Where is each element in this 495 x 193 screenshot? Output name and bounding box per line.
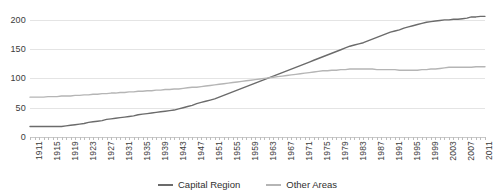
x-tick [129,137,130,140]
x-tick [62,137,63,140]
x-tick [188,137,189,140]
x-tick-label: 1983 [358,141,368,161]
x-tick [102,137,103,140]
x-tick [287,137,288,140]
x-tick [300,137,301,140]
x-tick-label: 1943 [178,141,188,161]
x-tick [197,137,198,140]
x-tick [165,137,166,140]
x-tick [273,137,274,140]
y-axis: 050100150200 [0,0,26,193]
series-lines [30,14,485,137]
x-tick [314,137,315,140]
legend-item[interactable]: Other Areas [266,179,337,190]
x-tick [485,137,486,140]
x-tick [219,137,220,140]
x-tick [138,137,139,140]
x-tick [206,137,207,140]
x-tick-label: 1931 [124,141,134,161]
x-tick-label: 1971 [304,141,314,161]
x-tick-label: 1999 [430,141,440,161]
x-tick [75,137,76,140]
x-tick [422,137,423,140]
x-tick [183,137,184,140]
x-tick [228,137,229,140]
legend-item[interactable]: Capital Region [158,179,240,190]
x-tick [377,137,378,140]
x-tick [170,137,171,140]
x-tick-label: 2011 [484,141,494,160]
x-tick [467,137,468,140]
x-tick-label: 1963 [268,141,278,161]
x-tick [278,137,279,140]
x-tick [201,137,202,140]
x-tick [57,137,58,140]
x-tick-label: 1927 [106,141,116,161]
x-tick [408,137,409,140]
x-tick [435,137,436,140]
x-axis-labels: 1911191519191923192719311935193919431947… [30,141,485,177]
y-tick-label: 100 [10,73,26,83]
series-line [30,16,485,126]
x-tick [372,137,373,140]
x-tick-label: 1919 [70,141,80,161]
x-tick-label: 1923 [88,141,98,161]
x-tick [368,137,369,140]
x-tick [192,137,193,140]
x-tick [332,137,333,140]
x-tick-label: 1987 [376,141,386,161]
x-tick-label: 1911 [34,141,44,160]
x-tick [426,137,427,140]
x-tick [444,137,445,140]
x-tick [156,137,157,140]
x-tick [282,137,283,140]
x-tick [395,137,396,140]
x-tick [224,137,225,140]
x-tick [413,137,414,140]
x-tick [233,137,234,140]
x-tick [35,137,36,140]
x-tick-label: 1995 [412,141,422,161]
x-tick-label: 1975 [322,141,332,161]
x-tick [107,137,108,140]
x-tick [363,137,364,140]
x-tick-label: 1947 [196,141,206,161]
x-tick [143,137,144,140]
x-tick [480,137,481,140]
x-tick [341,137,342,140]
x-tick [296,137,297,140]
x-tick-label: 2007 [466,141,476,161]
x-tick [48,137,49,140]
x-tick-label: 2003 [448,141,458,161]
x-tick [80,137,81,140]
x-tick-label: 1967 [286,141,296,161]
x-tick [147,137,148,140]
y-tick-label: 200 [10,15,26,25]
x-tick [458,137,459,140]
x-tick [71,137,72,140]
x-tick-label: 1955 [232,141,242,161]
x-tick [93,137,94,140]
x-tick [476,137,477,140]
x-tick [98,137,99,140]
x-tick [260,137,261,140]
legend-label: Capital Region [178,179,240,190]
x-tick [309,137,310,140]
x-tick [84,137,85,140]
x-tick [152,137,153,140]
legend-swatch-icon [266,184,281,186]
x-tick [390,137,391,140]
x-tick [161,137,162,140]
x-tick-label: 1935 [142,141,152,161]
x-tick [269,137,270,140]
x-tick [53,137,54,140]
x-tick [125,137,126,140]
y-tick-label: 50 [16,103,26,113]
x-tick [336,137,337,140]
x-tick [134,137,135,140]
x-tick [354,137,355,140]
x-tick [174,137,175,140]
x-tick-label: 1959 [250,141,260,161]
x-tick [327,137,328,140]
x-tick [386,137,387,140]
